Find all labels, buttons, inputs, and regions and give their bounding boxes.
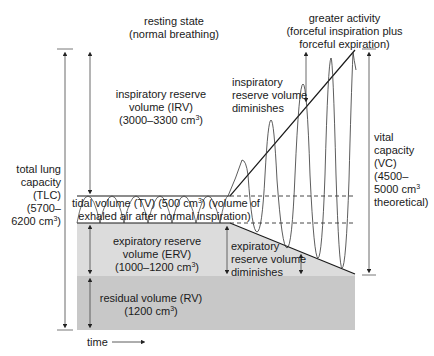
erv-line3: (1000–1200 cm3) <box>102 261 212 274</box>
tlc-line3: (TLC) <box>0 189 61 202</box>
resting-title-text: resting state <box>104 15 244 28</box>
tlc-line2: capacity <box>0 176 61 189</box>
erv-line1: expiratory reserve <box>102 235 212 248</box>
erv-line2: volume (ERV) <box>102 248 212 261</box>
tlc-line5: 6200 cm3) <box>0 215 61 228</box>
irv-dim2: reserve volume <box>232 89 307 102</box>
erv-diminishes-label: expiratory reserve volume diminishes <box>231 240 306 279</box>
irv-line1: inspiratory reserve <box>100 88 222 101</box>
resting-state-title: resting state (normal breathing) <box>104 15 244 41</box>
irv-dim1: inspiratory <box>232 76 307 89</box>
time-label: time <box>87 336 108 349</box>
tidal-volume-label: tidal volume (TV) (500 cm3) (volume of e… <box>72 197 257 223</box>
tlc-line4: (5700– <box>0 202 61 215</box>
tv-line1: tidal volume (TV) (500 cm3) (volume of <box>72 197 257 210</box>
irv-label: inspiratory reserve volume (IRV) (3000–3… <box>100 88 222 127</box>
tlc-line1: total lung <box>0 163 61 176</box>
irv-dim3: diminishes <box>232 102 307 115</box>
vc-line1: vital <box>374 131 428 144</box>
erv-label: expiratory reserve volume (ERV) (1000–12… <box>102 235 212 274</box>
activity-sub1-text: (forceful inspiration plus <box>257 25 432 38</box>
greater-activity-title: greater activity (forceful inspiration p… <box>257 12 432 51</box>
tlc-label: total lung capacity (TLC) (5700– 6200 cm… <box>0 163 61 228</box>
irv-line2: volume (IRV) <box>100 101 222 114</box>
rv-line1: residual volume (RV) <box>92 292 210 305</box>
tv-line2: exhaled air after normal inspiration) <box>72 210 257 223</box>
erv-dim2: reserve volume <box>231 253 306 266</box>
irv-diminishes-label: inspiratory reserve volume diminishes <box>232 76 307 115</box>
vc-line6: theoretical) <box>374 196 428 209</box>
vc-line2: capacity <box>374 144 428 157</box>
rv-line2: (1200 cm3) <box>92 305 210 318</box>
resting-sub-text: (normal breathing) <box>104 28 244 41</box>
lung-volume-diagram <box>0 0 434 356</box>
activity-title-text: greater activity <box>257 12 432 25</box>
vc-line3: (VC) <box>374 157 428 170</box>
erv-dim3: diminishes <box>231 266 306 279</box>
vc-line4: (4500– <box>374 170 428 183</box>
vc-line5: 5000 cm3 <box>374 183 428 196</box>
erv-dim1: expiratory <box>231 240 306 253</box>
rv-label: residual volume (RV) (1200 cm3) <box>92 292 210 318</box>
vc-label: vital capacity (VC) (4500– 5000 cm3 theo… <box>374 131 428 209</box>
irv-line3: (3000–3300 cm3) <box>100 114 222 127</box>
activity-sub2-text: forceful expiration) <box>257 38 432 51</box>
